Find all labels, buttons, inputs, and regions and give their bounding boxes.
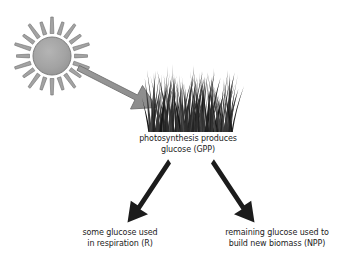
caption-gpp-line1: photosynthesis produces	[118, 134, 258, 145]
sun-disc	[33, 37, 71, 75]
sun-ray	[50, 79, 54, 96]
sun-ray	[75, 54, 88, 58]
caption-gpp-line2: glucose (GPP)	[118, 145, 258, 156]
sun-ray	[57, 22, 64, 35]
caption-npp-line1: remaining glucose used to	[214, 228, 340, 239]
caption-npp-line2: build new biomass (NPP)	[214, 239, 340, 250]
sunlight-arrow-shape	[77, 66, 157, 110]
sun-ray	[69, 34, 81, 44]
caption-respiration-line2: in respiration (R)	[60, 239, 180, 250]
caption-gpp: photosynthesis produces glucose (GPP)	[118, 134, 258, 155]
caption-respiration: some glucose used in respiration (R)	[60, 228, 180, 249]
sun-ray	[64, 24, 76, 39]
sun-ray	[28, 73, 40, 88]
sun-ray	[50, 17, 54, 34]
respiration-arrow-shape	[128, 159, 172, 222]
sun-ray	[40, 77, 47, 90]
grass-icon	[142, 64, 244, 132]
grass-blades	[142, 64, 244, 132]
sun-ray	[28, 24, 40, 39]
sun-icon	[15, 17, 90, 95]
sun-ray	[40, 22, 47, 35]
npp-arrow-shape	[211, 159, 255, 222]
diagram-canvas: photosynthesis produces glucose (GPP) so…	[0, 0, 340, 271]
sun-ray	[23, 34, 35, 44]
caption-npp: remaining glucose used to build new biom…	[214, 228, 340, 249]
respiration-arrow	[128, 159, 172, 222]
sun-ray	[15, 61, 32, 69]
sun-ray	[73, 43, 90, 51]
sunlight-arrow	[77, 66, 157, 110]
sun-ray	[64, 73, 76, 88]
npp-arrow	[211, 159, 255, 222]
sun-ray	[17, 54, 30, 58]
sun-ray	[15, 43, 32, 51]
sun-ray	[23, 68, 35, 78]
sun-ray	[57, 77, 64, 90]
caption-respiration-line1: some glucose used	[60, 228, 180, 239]
